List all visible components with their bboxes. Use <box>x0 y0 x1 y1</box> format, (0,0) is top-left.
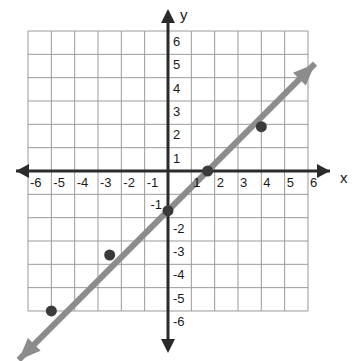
x-tick-label: 4 <box>263 175 270 190</box>
x-tick-label: 3 <box>240 175 247 190</box>
x-tick-label: -4 <box>77 175 89 190</box>
x-tick-label: 2 <box>217 175 224 190</box>
y-tick-label: 2 <box>173 127 180 142</box>
y-tick-label: 3 <box>173 104 180 119</box>
y-tick-label: -4 <box>173 267 185 282</box>
y-tick-label: 1 <box>173 151 180 166</box>
x-tick-label: -1 <box>147 175 159 190</box>
coordinate-plane-graph: -6-5-4-3-2-1123456 654321-1-2-3-4-5-6 x … <box>0 0 357 361</box>
y-tick-label: 5 <box>173 57 180 72</box>
y-axis-label: y <box>180 6 188 23</box>
x-tick-label: -3 <box>100 175 112 190</box>
y-tick-label: -6 <box>173 314 185 329</box>
x-tick-label: 6 <box>310 175 317 190</box>
y-tick-label: 6 <box>173 34 180 49</box>
x-tick-label: 5 <box>287 175 294 190</box>
y-tick-label: -3 <box>173 244 185 259</box>
y-tick-label: -1 <box>150 197 162 212</box>
y-tick-label: -2 <box>173 221 185 236</box>
graph-canvas: -6-5-4-3-2-1123456 654321-1-2-3-4-5-6 x … <box>0 0 357 361</box>
y-tick-label: 4 <box>173 81 180 96</box>
x-axis-label: x <box>340 169 348 186</box>
x-tick-label: -5 <box>53 175 65 190</box>
y-tick-label: -5 <box>173 291 185 306</box>
x-axis-tick-labels: -6-5-4-3-2-1123456 <box>30 175 317 190</box>
x-tick-label: -6 <box>30 175 42 190</box>
x-tick-label: -2 <box>123 175 135 190</box>
x-tick-label: 1 <box>193 175 200 190</box>
